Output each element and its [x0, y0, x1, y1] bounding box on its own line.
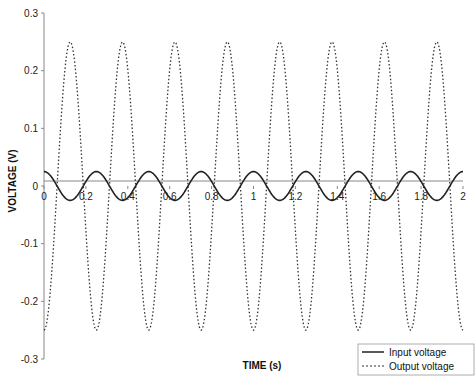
x-tick-label: 1: [251, 191, 257, 202]
x-tick-label: 2: [460, 191, 466, 202]
legend-input-label: Input voltage: [389, 347, 447, 358]
x-tick-label: 0.8: [205, 191, 219, 202]
x-tick-label: 1.2: [288, 191, 302, 202]
x-axis-title: TIME (s): [243, 360, 282, 371]
legend-output-label: Output voltage: [389, 361, 454, 372]
y-tick-label: -0.2: [21, 296, 39, 307]
y-tick-label: 0.2: [24, 65, 38, 76]
x-tick-label: 0: [41, 191, 47, 202]
x-tick-label: 0.2: [79, 191, 93, 202]
plot-area: 0.30.20.10-0.1-0.2-0.3 00.20.40.60.811.2…: [21, 8, 466, 365]
legend: Input voltage Output voltage: [358, 344, 474, 375]
y-axis-title: VOLTAGE (V): [7, 150, 18, 213]
y-tick-label: -0.3: [21, 354, 39, 365]
y-tick-label: 0.1: [24, 123, 38, 134]
x-tick-label: 1.8: [414, 191, 428, 202]
y-tick-label: 0.3: [24, 8, 38, 19]
y-ticks: 0.30.20.10-0.1-0.2-0.3: [21, 8, 44, 365]
y-tick-label: 0: [32, 181, 38, 192]
voltage-time-chart: 0.30.20.10-0.1-0.2-0.3 00.20.40.60.811.2…: [0, 0, 476, 377]
y-tick-label: -0.1: [21, 238, 39, 249]
x-ticks: 00.20.40.60.811.21.41.61.82: [41, 186, 466, 202]
